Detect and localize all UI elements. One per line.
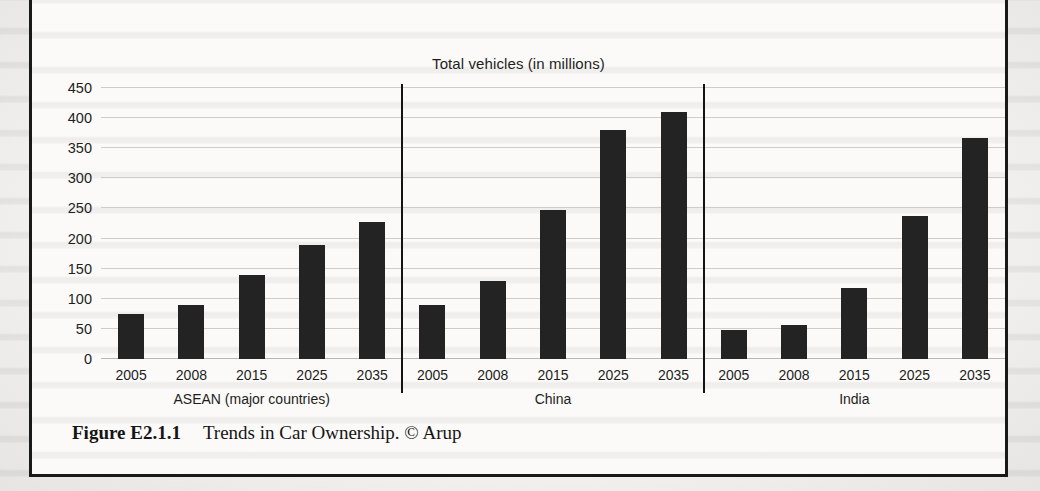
bar [540, 210, 566, 359]
y-axis-tick-label: 300 [68, 170, 92, 186]
gridline [101, 147, 1005, 148]
gridline [101, 87, 1005, 88]
bar [781, 325, 807, 359]
bar [118, 314, 144, 359]
x-axis-tick-label: 2035 [959, 367, 990, 383]
bar-chart: Total vehicles (in millions) 05010015020… [32, 0, 1005, 474]
figure-caption-text: Trends in Car Ownership. © Arup [203, 422, 462, 443]
x-axis-tick-label: 2005 [417, 367, 448, 383]
bar [299, 245, 325, 359]
figure-caption: Figure E2.1.1Trends in Car Ownership. © … [72, 422, 462, 444]
x-axis-tick-label: 2035 [357, 367, 388, 383]
x-axis-tick-label: 2025 [899, 367, 930, 383]
figure-caption-label: Figure E2.1.1 [72, 422, 181, 443]
y-axis-tick-label: 250 [68, 200, 92, 216]
bar [359, 222, 385, 359]
x-axis-tick-label: 2008 [778, 367, 809, 383]
x-axis-tick-label: 2025 [598, 367, 629, 383]
gridline [101, 117, 1005, 118]
group-divider [401, 84, 403, 393]
bar [962, 138, 988, 359]
bar [419, 305, 445, 359]
y-axis-tick-label: 150 [68, 261, 92, 277]
y-axis-tick-label: 100 [68, 291, 92, 307]
x-axis-tick-label: 2015 [537, 367, 568, 383]
bar [480, 281, 506, 359]
group-label: India [839, 391, 869, 407]
bar [902, 216, 928, 359]
bar [841, 288, 867, 359]
chart-title: Total vehicles (in millions) [32, 55, 1005, 72]
x-axis-tick-label: 2035 [658, 367, 689, 383]
x-axis-tick-label: 2015 [236, 367, 267, 383]
x-axis-tick-label: 2005 [116, 367, 147, 383]
y-axis-tick-label: 450 [68, 80, 92, 96]
bar [239, 275, 265, 359]
x-axis-tick-label: 2008 [477, 367, 508, 383]
y-axis-tick-label: 50 [76, 321, 92, 337]
y-axis-tick-label: 400 [68, 110, 92, 126]
figure-page: Total vehicles (in millions) 05010015020… [0, 0, 1040, 491]
bar [661, 112, 687, 359]
x-axis-tick-label: 2005 [718, 367, 749, 383]
bar [178, 305, 204, 359]
bar [721, 330, 747, 359]
group-label: ASEAN (major countries) [173, 391, 329, 407]
gridline [101, 177, 1005, 178]
group-divider [703, 84, 705, 393]
group-label: China [535, 391, 572, 407]
gridline [101, 207, 1005, 208]
bar [600, 130, 626, 359]
y-axis-tick-label: 200 [68, 231, 92, 247]
x-axis-tick-label: 2015 [839, 367, 870, 383]
figure-frame: Total vehicles (in millions) 05010015020… [29, 0, 1008, 477]
x-axis-tick-label: 2008 [176, 367, 207, 383]
plot-area: 050100150200250300350400450 200520082015… [101, 88, 1005, 359]
x-axis-tick-label: 2025 [296, 367, 327, 383]
y-axis-tick-label: 350 [68, 140, 92, 156]
y-axis-tick-label: 0 [84, 351, 92, 367]
